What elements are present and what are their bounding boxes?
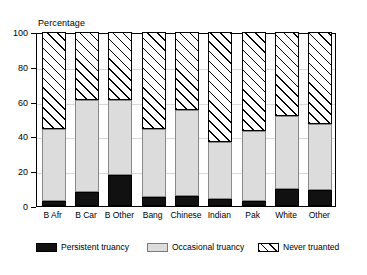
bar-segment-occasional[interactable]: [75, 100, 99, 192]
legend-label: Never truanted: [283, 243, 339, 252]
bar-segment-persistent[interactable]: [142, 197, 166, 206]
y-axis-title: Percentage: [38, 18, 85, 28]
bar-segment-occasional[interactable]: [142, 129, 166, 197]
bar-segment-never[interactable]: [308, 32, 332, 124]
bar-segment-never[interactable]: [175, 32, 199, 110]
bar-segment-never[interactable]: [75, 32, 99, 100]
bar-segment-occasional[interactable]: [208, 142, 232, 199]
bar-segment-persistent[interactable]: [75, 192, 99, 206]
bar-segment-persistent[interactable]: [242, 201, 266, 206]
legend-item[interactable]: Never truanted: [258, 243, 339, 252]
bar-segment-never[interactable]: [108, 32, 132, 100]
bar-group[interactable]: [42, 32, 66, 206]
bar-segment-never[interactable]: [242, 32, 266, 131]
bar-segment-occasional[interactable]: [308, 124, 332, 190]
bar-group[interactable]: [75, 32, 99, 206]
bar-group[interactable]: [208, 32, 232, 206]
y-tick-label: 80: [4, 63, 28, 72]
y-tick-label: 20: [4, 168, 28, 177]
solid-black-swatch: [36, 243, 57, 252]
bar-segment-persistent[interactable]: [108, 175, 132, 206]
bar-group[interactable]: [142, 32, 166, 206]
stacked-bar-chart: Percentage 020406080100 B AfrB CarB Othe…: [0, 0, 367, 275]
chart-legend: Persistent truancyOccasional truancyNeve…: [36, 243, 336, 259]
bar-segment-never[interactable]: [275, 32, 299, 116]
bar-segment-occasional[interactable]: [242, 131, 266, 201]
bar-segment-persistent[interactable]: [308, 190, 332, 206]
bar-segment-never[interactable]: [208, 32, 232, 142]
light-grey-swatch: [147, 243, 168, 252]
legend-item[interactable]: Persistent truancy: [36, 243, 129, 252]
bar-group[interactable]: [175, 32, 199, 206]
bar-segment-occasional[interactable]: [42, 129, 66, 200]
bar-group[interactable]: [275, 32, 299, 206]
bar-segment-occasional[interactable]: [275, 116, 299, 189]
y-tick-label: 60: [4, 98, 28, 107]
plot-area: [36, 33, 336, 207]
legend-label: Persistent truancy: [61, 243, 129, 252]
bar-segment-persistent[interactable]: [42, 201, 66, 206]
hatched-swatch: [258, 243, 279, 252]
bar-segment-occasional[interactable]: [108, 100, 132, 175]
bar-segment-persistent[interactable]: [208, 199, 232, 206]
bar-segment-occasional[interactable]: [175, 110, 199, 195]
bar-segment-never[interactable]: [42, 32, 66, 129]
bar-group[interactable]: [108, 32, 132, 206]
bar-segment-persistent[interactable]: [175, 196, 199, 206]
legend-label: Occasional truancy: [172, 243, 244, 252]
bar-segment-never[interactable]: [142, 32, 166, 129]
legend-item[interactable]: Occasional truancy: [147, 243, 244, 252]
y-tick-mark: [31, 207, 36, 208]
bar-segment-persistent[interactable]: [275, 189, 299, 206]
x-tick-label: Other: [291, 211, 347, 220]
bar-group[interactable]: [308, 32, 332, 206]
y-tick-label: 100: [4, 29, 28, 38]
bar-group[interactable]: [242, 32, 266, 206]
bars-layer: [37, 34, 335, 206]
y-tick-label: 40: [4, 133, 28, 142]
